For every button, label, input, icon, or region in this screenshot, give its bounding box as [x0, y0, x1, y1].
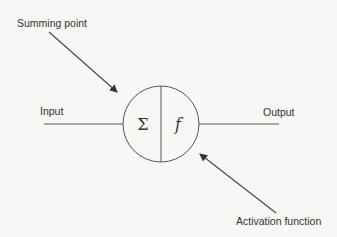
activation-function-arrow: [200, 154, 276, 213]
input-label: Input: [40, 105, 63, 117]
sigma-symbol: Σ: [137, 115, 148, 134]
output-label: Output: [263, 106, 295, 118]
summing-point-label: Summing point: [17, 17, 87, 29]
activation-function-label: Activation function: [236, 215, 321, 227]
summing-point-arrow: [49, 32, 117, 92]
neuron-diagram: Summing point Input Σ f Output Activatio…: [0, 0, 337, 237]
neuron-node: Σ f: [123, 86, 199, 162]
activation-symbol: f: [174, 115, 184, 134]
